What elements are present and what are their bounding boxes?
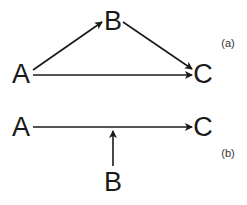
diagram-canvas: [0, 0, 247, 205]
edge-b-to-c: [123, 22, 192, 69]
node-a-diagram-b: A: [12, 114, 30, 141]
node-c-diagram-b: C: [193, 114, 213, 141]
label-a: (a): [221, 38, 234, 49]
node-b-diagram-b: B: [104, 169, 122, 196]
node-a-diagram-a: A: [12, 61, 30, 88]
label-b: (b): [221, 148, 234, 159]
edge-a-to-b: [33, 22, 102, 70]
node-b-diagram-a: B: [104, 8, 122, 35]
node-c-diagram-a: C: [193, 61, 213, 88]
diagram-b-edges: [33, 127, 192, 166]
